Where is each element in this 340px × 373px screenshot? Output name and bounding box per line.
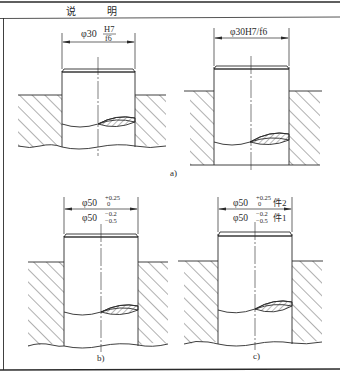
panel-c xyxy=(178,197,323,350)
dim-c-upper-prefix: φ50 xyxy=(233,198,248,208)
dim-b-lower-sub: −0.5 xyxy=(105,217,117,224)
dim-c-lower-sup: −0.2 xyxy=(256,210,268,217)
dim-c-upper-part: 件2 xyxy=(273,197,287,208)
fit-tolerance-drawing: φ30 H7 f6 φ30H7/f6 a) xyxy=(0,0,340,373)
dim-b-upper-prefix: φ50 xyxy=(82,198,97,208)
header-title-left: 说 xyxy=(66,3,76,18)
dim-c-upper-sub: 0 xyxy=(258,200,261,207)
dim-c-lower-sub: −0.5 xyxy=(256,217,268,224)
panel-a-right xyxy=(184,28,322,170)
header-rule xyxy=(0,17,340,19)
dim-a-right: φ30H7/f6 xyxy=(230,27,267,37)
header-title-right: 明 xyxy=(107,3,117,18)
dim-c-lower-prefix: φ50 xyxy=(233,213,248,223)
dim-b-lower-prefix: φ50 xyxy=(82,213,97,223)
label-c: c) xyxy=(253,351,260,361)
bottom-rule xyxy=(0,369,340,370)
dim-b-lower-sup: −0.2 xyxy=(105,210,117,217)
dim-a-left-prefix: φ30 xyxy=(81,28,97,39)
dim-a-left-numerator: H7 xyxy=(104,24,114,34)
dim-c-lower-part: 件1 xyxy=(273,212,287,223)
label-a: a) xyxy=(170,168,177,178)
label-b: b) xyxy=(97,353,105,363)
dim-b-upper-sub: 0 xyxy=(107,200,110,207)
panel-b xyxy=(28,197,168,352)
panel-a-left xyxy=(18,33,166,156)
dim-a-left-denominator: f6 xyxy=(105,34,112,43)
